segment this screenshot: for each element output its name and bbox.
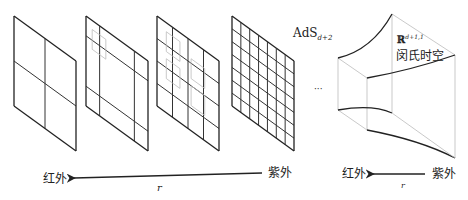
minkowski-caption: 闵氏时空 [396, 48, 444, 63]
left-axis-uv-label: 紫外 [268, 166, 292, 180]
left-axis-variable: r [157, 182, 163, 193]
coarse-grain-block [92, 30, 106, 60]
ads-label-base: AdS [292, 26, 318, 40]
panel-border [86, 106, 148, 151]
ads-label: AdSd+2 [292, 26, 333, 42]
right-axis-ir-label: 红外 [342, 166, 366, 181]
ads-label-subscript: d+2 [318, 34, 333, 42]
grid-line-horizontal [86, 36, 148, 81]
minkowski-symbol-superscript: d+1,1 [405, 33, 423, 40]
holographic-rg-diagram: AdSd+2 ··· ℝd+1,1 闵氏时空 红外 紫外 r 红 [0, 0, 468, 200]
mink-bottom-left-curve [338, 108, 392, 113]
grid-line-horizontal [86, 86, 148, 131]
coarse-grain-block [191, 59, 205, 89]
mink-top-curve [338, 14, 392, 58]
panel-2 [86, 16, 148, 151]
coarse-grain-block [166, 59, 180, 89]
mink-bottom-curve [367, 130, 455, 158]
ellipsis: ··· [314, 84, 323, 94]
right-rg-axis: 红外 紫外 r [342, 166, 456, 190]
right-axis-variable: r [401, 181, 406, 190]
lattice-panels [14, 16, 294, 151]
left-rg-axis: 红外 紫外 r [43, 166, 292, 193]
panel-1 [14, 16, 76, 151]
mink-left-top-diag [338, 58, 367, 78]
panel-4 [232, 16, 294, 151]
right-axis-uv-label: 紫外 [432, 167, 456, 181]
mink-left-bottom-diag [338, 110, 367, 130]
panel-border [86, 16, 148, 61]
mink-bottom-diag [392, 113, 455, 158]
minkowski-symbol: ℝd+1,1 [397, 33, 424, 45]
left-axis-arrow [74, 173, 262, 178]
left-axis-ir-label: 红外 [43, 171, 67, 186]
panel-3 [157, 16, 219, 151]
